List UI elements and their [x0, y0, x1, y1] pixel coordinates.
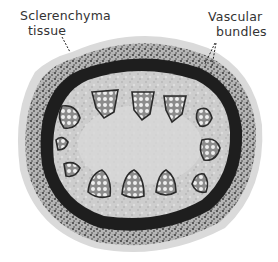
sclerenchyma-tissue-label: Sclerenchyma tissue: [20, 8, 111, 38]
sclerenchyma-leader-line: [62, 37, 70, 52]
label-line-2: tissue: [20, 23, 111, 38]
label-line-1: Vascular: [208, 9, 262, 24]
vascular-bundles-label: Vascular bundles: [208, 9, 267, 39]
vascular-bundle: [196, 108, 212, 126]
label-line-1: Sclerenchyma: [20, 8, 111, 23]
label-line-2: bundles: [208, 24, 267, 39]
stem-cross-section-micrograph: [0, 0, 278, 262]
